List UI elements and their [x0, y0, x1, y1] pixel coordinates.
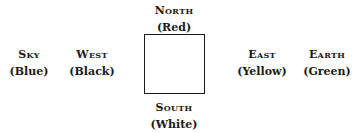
- north-label: North (Red): [148, 2, 200, 36]
- east-label: East (Yellow): [234, 46, 290, 80]
- south-label: South (White): [146, 99, 202, 133]
- earth-name: Earth: [302, 46, 352, 63]
- west-name: West: [67, 46, 117, 63]
- west-label: West (Black): [67, 46, 117, 80]
- north-name: North: [148, 2, 200, 19]
- sky-label: Sky (Blue): [8, 46, 50, 80]
- east-color: (Yellow): [234, 63, 290, 80]
- sky-color: (Blue): [8, 63, 50, 80]
- west-color: (Black): [67, 63, 117, 80]
- east-name: East: [234, 46, 290, 63]
- south-name: South: [146, 99, 202, 116]
- sky-name: Sky: [8, 46, 50, 63]
- center-square: [144, 34, 205, 94]
- earth-color: (Green): [302, 63, 352, 80]
- earth-label: Earth (Green): [302, 46, 352, 80]
- south-color: (White): [146, 116, 202, 133]
